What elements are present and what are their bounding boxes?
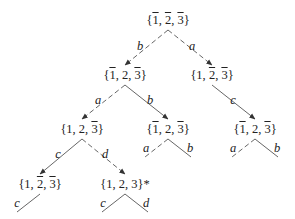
tree-node-n-l3-right: {1, 2, 3} bbox=[233, 122, 276, 136]
tree-node-n-l4-left: {1, 2, 3} bbox=[18, 177, 61, 191]
tree-node-n-l4-mid: {1, 2, 3}* bbox=[100, 177, 150, 191]
edge-label: b bbox=[187, 142, 193, 154]
edge-label: d bbox=[102, 148, 108, 160]
edge-label: d bbox=[143, 197, 149, 209]
tree-diagram: {1, 2, 3}{1, 2, 3}{1, 2, 3}{1, 2, 3}{1, … bbox=[0, 0, 295, 219]
edge-label: c bbox=[14, 197, 20, 209]
edge-label: a bbox=[189, 40, 195, 52]
edge-label: b bbox=[147, 94, 153, 106]
edge-a-dashed bbox=[82, 85, 125, 119]
tree-node-n-l3-mid: {1, 2, 3} bbox=[146, 122, 189, 136]
edge-label: c bbox=[230, 94, 236, 106]
edge-label: a bbox=[95, 94, 101, 106]
edge-label: c bbox=[100, 197, 106, 209]
tree-node-root: {1, 2, 3} bbox=[146, 13, 189, 27]
edge-label: b bbox=[274, 142, 280, 154]
edge-c-solid bbox=[17, 194, 40, 212]
tree-node-n-l2-left: {1, 2, 3} bbox=[103, 68, 146, 82]
tree-node-n-l2-right: {1, 2, 3} bbox=[190, 68, 233, 82]
edge-b-dashed bbox=[125, 30, 168, 65]
edge-label: a bbox=[143, 142, 149, 154]
edge-label: a bbox=[230, 142, 236, 154]
tree-node-n-l3-left: {1, 2, 3} bbox=[60, 122, 103, 136]
edge-label: c bbox=[55, 148, 61, 160]
edge-label: b bbox=[137, 40, 143, 52]
